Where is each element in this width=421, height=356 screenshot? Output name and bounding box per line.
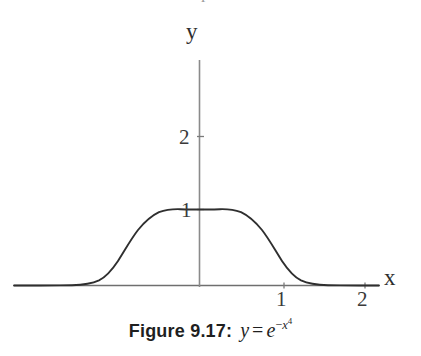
y-tick-label-1: 1 (181, 200, 192, 221)
figure-page: l y x 2 1 1 2 Figure 9.17:y=e−x4 (0, 0, 421, 356)
equation-operator: = (249, 319, 266, 341)
x-tick-label-2: 2 (357, 289, 368, 310)
figure-caption: Figure 9.17:y=e−x4 (0, 318, 421, 343)
x-axis-label: x (384, 266, 396, 289)
y-tick-label-2: 2 (179, 127, 190, 148)
curve-exp-neg-x4 (14, 209, 379, 285)
equation-base: e (266, 319, 275, 341)
figure-caption-label: Figure 9.17: (129, 321, 232, 341)
equation-exponent-power: 4 (288, 316, 292, 326)
plot-svg (0, 0, 421, 310)
y-axis-label: y (186, 20, 198, 43)
equation-lhs: y (240, 319, 249, 341)
figure-caption-equation: y=e−x4 (232, 319, 292, 341)
x-tick-label-1: 1 (276, 289, 287, 310)
plot-area (0, 0, 421, 310)
equation-exponent: −x4 (275, 318, 292, 332)
